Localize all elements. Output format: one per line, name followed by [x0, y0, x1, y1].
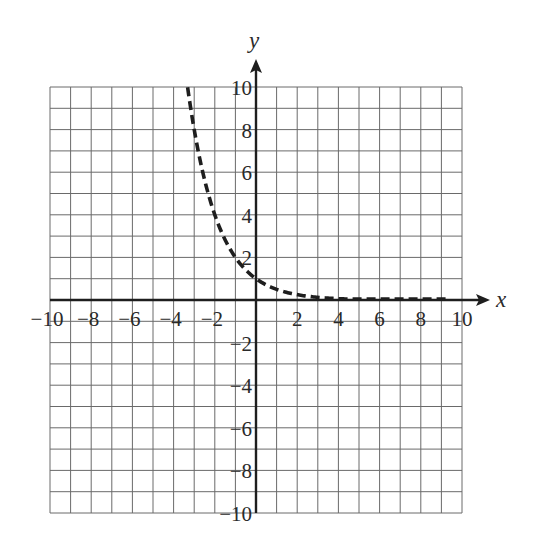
y-tick-label: −8	[230, 459, 252, 483]
y-axis-label: y	[247, 28, 260, 53]
y-tick-label: 6	[242, 161, 253, 185]
x-tick-label: 8	[416, 307, 427, 331]
x-tick-label: 2	[292, 307, 303, 331]
y-tick-label: −2	[230, 332, 252, 356]
y-tick-label: 10	[231, 76, 252, 100]
y-tick-label: −4	[230, 374, 253, 398]
x-tick-label: 6	[374, 307, 385, 331]
x-tick-label: −6	[118, 307, 140, 331]
x-tick-label: 4	[333, 307, 344, 331]
x-axis-label: x	[495, 287, 507, 312]
x-tick-label: 10	[452, 307, 473, 331]
x-tick-label: −2	[201, 307, 223, 331]
y-tick-label: −10	[219, 502, 252, 526]
x-tick-label: −10	[31, 307, 64, 331]
coordinate-plane: x y −10−8−6−4−2246810108642−2−4−6−8−10	[0, 0, 538, 553]
axes: x y	[50, 28, 507, 513]
y-tick-label: −6	[230, 417, 252, 441]
y-tick-label: 4	[242, 204, 253, 228]
x-tick-label: −4	[159, 307, 182, 331]
y-tick-label: 8	[242, 119, 253, 143]
x-tick-label: −8	[77, 307, 99, 331]
